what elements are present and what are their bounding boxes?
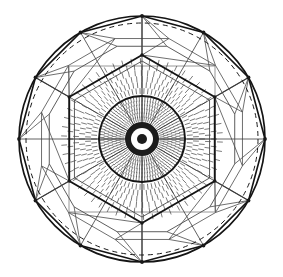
rim-vertex-0: [140, 14, 144, 18]
rim-vertex-9: [17, 137, 21, 141]
rim-vertex-6: [140, 260, 144, 264]
hex-vertex-0: [140, 53, 143, 56]
hex-vertex-2: [213, 179, 216, 182]
hex-vertex-3: [140, 221, 143, 224]
rim-vertex-7: [79, 244, 83, 248]
hex-vertex-1: [213, 95, 216, 98]
rim-vertex-10: [34, 76, 38, 80]
hex-vertex-5: [68, 95, 71, 98]
mandala-figure: [0, 0, 283, 277]
rim-vertex-2: [247, 76, 251, 80]
rim-vertex-1: [202, 31, 206, 35]
rim-vertex-8: [34, 199, 38, 203]
rim-vertex-11: [79, 31, 83, 35]
hex-vertex-4: [68, 179, 71, 182]
rim-vertex-4: [247, 199, 251, 203]
mandala-svg: [0, 0, 283, 277]
rim-vertex-5: [202, 244, 206, 248]
rim-vertex-3: [263, 137, 267, 141]
bullseye-ring-2: [137, 134, 147, 144]
